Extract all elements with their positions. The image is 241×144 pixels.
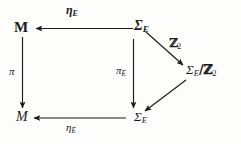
arrow-label-pi-left-glyph: π — [9, 65, 15, 77]
arrow-label-pi-middle: πE — [116, 65, 126, 78]
arrow-label-eta-top-subscript: E — [73, 9, 78, 18]
arrow-label-pi-middle-subscript: E — [122, 70, 126, 78]
node-quotient-sigma: Σ — [186, 62, 194, 77]
arrow-label-eta-bottom-subscript: E — [71, 127, 75, 135]
node-m-bottom-label: M — [16, 109, 28, 124]
arrow-label-eta-bottom: ηE — [66, 122, 76, 135]
node-sigma-e-bottom: ΣE — [134, 110, 147, 125]
node-sigma-e-mod-z2: ΣE/ℤ2 — [186, 63, 216, 78]
node-m-bottom: M — [16, 110, 28, 124]
commutative-diagram: M ΣE ΣE/ℤ2 M ΣE ηE ℤ2 π πE ηE — [0, 0, 241, 144]
node-sigma-e-top-subscript: E — [143, 24, 149, 34]
node-quotient-suffix-subscript: 2 — [212, 68, 216, 78]
arrow-label-z2: ℤ2 — [169, 37, 181, 51]
arrow-label-z2-subscript: 2 — [177, 42, 181, 51]
node-sigma-e-top-label: Σ — [134, 18, 143, 33]
node-m-top: M — [14, 20, 28, 35]
node-m-top-label: M — [14, 19, 28, 35]
arrow-label-pi-left: π — [9, 66, 15, 77]
node-sigma-e-bottom-subscript: E — [142, 115, 147, 125]
node-sigma-e-bottom-label: Σ — [134, 109, 142, 124]
arrow-label-eta-top: ηE — [66, 4, 78, 18]
node-sigma-e-top: ΣE — [134, 19, 149, 35]
node-quotient-suffix: /ℤ — [199, 62, 212, 77]
arrow-section-map — [145, 80, 186, 111]
arrow-label-eta-top-glyph: η — [66, 3, 73, 17]
